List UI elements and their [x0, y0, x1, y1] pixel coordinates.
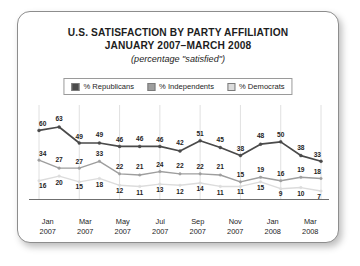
- x-axis-tick-month: Sep: [179, 217, 217, 227]
- x-axis-tick: May2007: [104, 217, 142, 243]
- legend-item-democrats: % Democrats: [227, 82, 285, 91]
- x-axis-tick-year: 2007: [104, 227, 142, 237]
- legend-swatch-democrats: [227, 83, 235, 91]
- x-axis-tick-year: 2008: [292, 227, 330, 237]
- svg-text:51: 51: [196, 130, 204, 137]
- x-axis-tick-year: 2007: [142, 227, 180, 237]
- svg-text:14: 14: [196, 185, 204, 192]
- svg-text:21: 21: [217, 163, 225, 170]
- svg-text:38: 38: [237, 145, 245, 152]
- x-axis-tick: Mar2008: [292, 217, 330, 243]
- chart-plot-area: 6063494946464642514538485038333427273322…: [29, 105, 329, 215]
- x-axis-tick: Nov2007: [217, 217, 255, 243]
- svg-text:34: 34: [39, 150, 47, 157]
- x-axis-tick-year: 2007: [67, 227, 105, 237]
- x-axis-tick: Jan2007: [29, 217, 67, 243]
- svg-text:42: 42: [176, 139, 184, 146]
- x-axis-tick-month: May: [104, 217, 142, 227]
- svg-text:63: 63: [55, 115, 63, 122]
- svg-text:24: 24: [156, 161, 164, 168]
- chart-title-line-1: U.S. SATISFACTION BY PARTY AFFILIATION: [18, 27, 338, 40]
- svg-text:45: 45: [217, 136, 225, 143]
- svg-text:49: 49: [76, 133, 84, 140]
- svg-text:18: 18: [96, 181, 104, 188]
- chart-svg: 6063494946464642514538485038333427273322…: [29, 105, 329, 215]
- svg-text:46: 46: [116, 136, 124, 143]
- svg-text:50: 50: [277, 131, 285, 138]
- svg-text:22: 22: [196, 163, 204, 170]
- svg-text:49: 49: [96, 131, 104, 138]
- x-axis-tick: Sep2007: [179, 217, 217, 243]
- svg-text:9: 9: [279, 190, 283, 197]
- x-axis-tick-month: Jan: [254, 217, 292, 227]
- chart-legend: % Republicans % Independents % Democrats: [63, 78, 292, 95]
- svg-text:19: 19: [257, 166, 265, 173]
- svg-text:10: 10: [297, 190, 305, 197]
- chart-subtitle: (percentage "satisfied"): [18, 53, 338, 66]
- x-axis-tick-month: Jul: [142, 217, 180, 227]
- x-axis-tick-year: 2007: [179, 227, 217, 237]
- svg-text:16: 16: [277, 170, 285, 177]
- svg-text:12: 12: [116, 187, 124, 194]
- svg-text:15: 15: [257, 184, 265, 191]
- svg-text:33: 33: [314, 151, 322, 158]
- svg-text:22: 22: [116, 163, 124, 170]
- svg-text:46: 46: [136, 135, 144, 142]
- svg-text:27: 27: [76, 158, 84, 165]
- legend-label-republicans: % Republicans: [83, 82, 134, 91]
- svg-text:11: 11: [217, 189, 224, 196]
- svg-text:21: 21: [136, 163, 144, 170]
- svg-text:33: 33: [96, 150, 104, 157]
- x-axis-tick-month: Mar: [67, 217, 105, 227]
- svg-text:12: 12: [176, 188, 184, 195]
- x-axis-tick-month: Nov: [217, 217, 255, 227]
- svg-text:27: 27: [55, 156, 63, 163]
- svg-text:15: 15: [76, 183, 84, 190]
- svg-text:7: 7: [317, 193, 321, 200]
- chart-card: U.S. SATISFACTION BY PARTY AFFILIATION J…: [17, 11, 339, 243]
- svg-text:15: 15: [237, 171, 245, 178]
- svg-text:18: 18: [314, 168, 322, 175]
- x-axis-tick: Jul2007: [142, 217, 180, 243]
- x-axis-tick-year: 2007: [217, 227, 255, 237]
- svg-text:46: 46: [156, 136, 164, 143]
- legend-swatch-republicans: [71, 83, 79, 91]
- legend-item-republicans: % Republicans: [71, 82, 134, 91]
- svg-text:48: 48: [257, 132, 265, 139]
- x-axis-tick-month: Mar: [292, 217, 330, 227]
- svg-text:11: 11: [136, 189, 143, 196]
- svg-text:60: 60: [39, 120, 47, 127]
- x-axis-tick-year: 2007: [29, 227, 67, 237]
- svg-text:38: 38: [297, 144, 305, 151]
- svg-text:16: 16: [39, 182, 47, 189]
- chart-x-axis: Jan2007Mar2007May2007Jul2007Sep2007Nov20…: [29, 217, 329, 243]
- svg-text:19: 19: [297, 166, 305, 173]
- legend-label-independents: % Independents: [159, 82, 214, 91]
- chart-title-block: U.S. SATISFACTION BY PARTY AFFILIATION J…: [18, 27, 338, 66]
- legend-item-independents: % Independents: [147, 82, 214, 91]
- x-axis-tick-month: Jan: [29, 217, 67, 227]
- legend-swatch-independents: [147, 83, 155, 91]
- svg-text:20: 20: [55, 179, 63, 186]
- legend-label-democrats: % Democrats: [239, 82, 285, 91]
- x-axis-tick: Mar2007: [67, 217, 105, 243]
- svg-text:11: 11: [237, 188, 244, 195]
- svg-text:22: 22: [176, 162, 184, 169]
- chart-title-line-2: JANUARY 2007–MARCH 2008: [18, 40, 338, 53]
- x-axis-tick: Jan2008: [254, 217, 292, 243]
- svg-text:13: 13: [156, 186, 164, 193]
- x-axis-tick-year: 2008: [254, 227, 292, 237]
